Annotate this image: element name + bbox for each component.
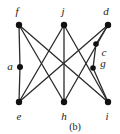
graph-edge-g-i bbox=[93, 68, 108, 102]
vertex-label-f: f bbox=[15, 6, 18, 17]
graph-figure: fjdacgehi (b) bbox=[0, 0, 120, 134]
graph-vertex-e bbox=[16, 99, 22, 105]
graph-vertex-a bbox=[17, 64, 23, 70]
vertex-label-a: a bbox=[7, 61, 13, 72]
edges-layer bbox=[19, 25, 108, 102]
vertex-label-e: e bbox=[17, 111, 22, 122]
vertex-label-j: j bbox=[61, 6, 64, 17]
graph-vertex-d bbox=[105, 22, 111, 28]
graph-vertex-j bbox=[61, 22, 67, 28]
vertex-label-h: h bbox=[61, 111, 67, 122]
graph-vertex-h bbox=[61, 99, 67, 105]
graph-edge-a-e bbox=[19, 67, 20, 102]
vertex-label-d: d bbox=[103, 6, 109, 17]
graph-vertex-f bbox=[16, 22, 22, 28]
figure-caption: (b) bbox=[69, 121, 81, 132]
graph-edge-f-a bbox=[19, 25, 20, 67]
graph-vertex-g bbox=[90, 65, 96, 71]
vertex-label-i: i bbox=[105, 111, 108, 122]
vertex-label-g: g bbox=[100, 58, 106, 69]
graph-vertex-c bbox=[93, 41, 99, 47]
graph-vertex-i bbox=[105, 99, 111, 105]
